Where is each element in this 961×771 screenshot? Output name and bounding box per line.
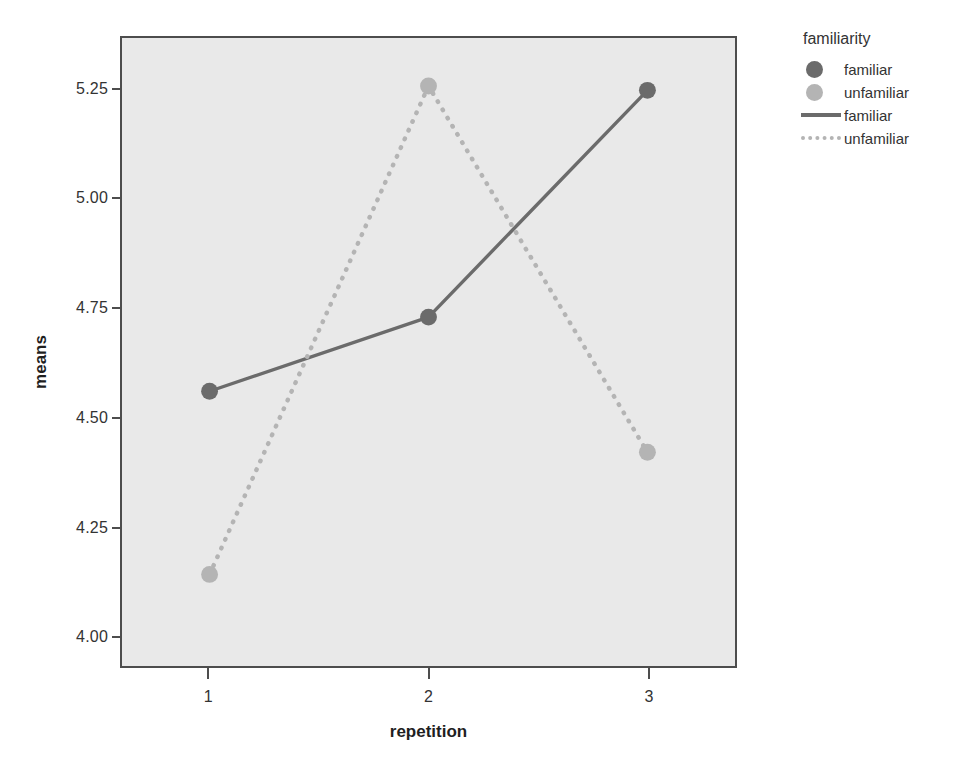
x-axis-tick-label: 2 xyxy=(409,688,449,706)
y-axis-title: means xyxy=(31,307,51,417)
legend-entry-label: familiar xyxy=(844,107,892,124)
x-axis-tick-label: 3 xyxy=(629,688,669,706)
legend-entries: familiarunfamiliarfamiliarunfamiliar xyxy=(800,58,955,149)
series-line-familiar xyxy=(210,90,648,391)
legend-dotted-line-icon xyxy=(800,127,844,149)
legend-entry[interactable]: unfamiliar xyxy=(800,81,955,103)
data-point-unfamiliar xyxy=(639,444,656,461)
y-axis-tick-label: 4.50 xyxy=(50,409,108,427)
legend-title: familiarity xyxy=(803,30,955,48)
y-axis-tick-label: 5.00 xyxy=(50,189,108,207)
data-point-familiar xyxy=(639,82,656,99)
legend-entry[interactable]: familiar xyxy=(800,58,955,80)
legend-circle-marker-icon xyxy=(800,81,844,103)
profile-plot-figure: 4.004.254.504.755.005.25 means 123 repet… xyxy=(0,0,961,771)
circle-icon xyxy=(806,84,823,101)
plot-area xyxy=(120,36,737,668)
legend: familiarity familiarunfamiliarfamiliarun… xyxy=(800,30,955,150)
x-axis-title: repetition xyxy=(120,722,737,742)
data-point-unfamiliar xyxy=(201,566,218,583)
legend-entry-label: unfamiliar xyxy=(844,130,909,147)
circle-icon xyxy=(806,61,823,78)
x-axis-tick-mark xyxy=(428,668,430,679)
data-point-unfamiliar xyxy=(420,78,437,95)
legend-solid-line-icon xyxy=(800,104,844,126)
legend-entry[interactable]: unfamiliar xyxy=(800,127,955,149)
x-axis-tick-mark xyxy=(207,668,209,679)
y-axis-tick-label: 4.75 xyxy=(50,299,108,317)
y-axis-tick-label: 5.25 xyxy=(50,80,108,98)
y-axis-tick-labels: 4.004.254.504.755.005.25 xyxy=(46,0,108,771)
legend-entry[interactable]: familiar xyxy=(800,104,955,126)
legend-circle-marker-icon xyxy=(800,58,844,80)
data-point-familiar xyxy=(201,383,218,400)
data-point-familiar xyxy=(420,309,437,326)
x-axis-tick-mark xyxy=(648,668,650,679)
plot-canvas xyxy=(122,38,735,666)
legend-entry-label: unfamiliar xyxy=(844,84,909,101)
y-axis-tick-label: 4.25 xyxy=(50,519,108,537)
dotted-line-icon xyxy=(801,136,841,140)
solid-line-icon xyxy=(801,113,841,117)
y-axis-tick-label: 4.00 xyxy=(50,628,108,646)
legend-entry-label: familiar xyxy=(844,61,892,78)
x-axis-tick-label: 1 xyxy=(188,688,228,706)
